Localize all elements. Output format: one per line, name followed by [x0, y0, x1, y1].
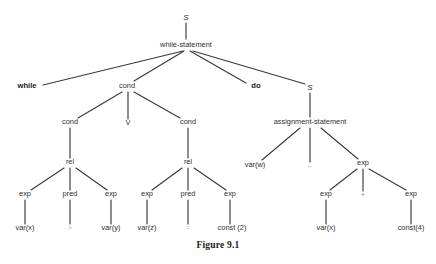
tree-node-n29: = — [186, 223, 190, 232]
tree-edge — [321, 128, 358, 159]
tree-node-n10: assignment-statement — [274, 117, 347, 126]
tree-node-n20: pred — [181, 189, 196, 198]
tree-edge — [152, 168, 182, 190]
tree-node-n9: cond — [180, 117, 196, 126]
tree-edge — [262, 128, 300, 160]
tree-node-n6: S — [307, 83, 313, 92]
tree-node-n8: V — [126, 118, 131, 127]
tree-edge — [134, 51, 184, 81]
tree-edge — [194, 168, 226, 190]
tree-node-n31: var(x) — [317, 223, 336, 232]
tree-node-n7: cond — [62, 117, 78, 126]
tree-edge — [76, 168, 107, 190]
tree-node-n17: pred — [63, 189, 78, 198]
tree-node-n25: var(x) — [16, 223, 35, 232]
tree-edge — [369, 169, 406, 190]
tree-node-n11: rel — [66, 157, 75, 166]
tree-node-n28: var(z) — [138, 223, 157, 232]
tree-node-n19: exp — [141, 189, 153, 198]
tree-node-n15: exp — [357, 158, 369, 167]
tree-node-n27: var(y) — [102, 223, 121, 232]
tree-node-n5: do — [251, 81, 261, 90]
tree-node-n21: exp — [224, 189, 236, 198]
tree-node-n3: while — [17, 81, 37, 90]
tree-node-n23: + — [361, 190, 365, 199]
tree-node-n1: S — [183, 13, 189, 22]
tree-edge — [134, 92, 180, 118]
tree-node-n24: exp — [405, 189, 417, 198]
figure-container: Swhile-statementwhileconddoScondVcondass… — [0, 0, 436, 264]
tree-node-n32: const(4) — [398, 223, 425, 232]
tree-edge — [190, 51, 246, 83]
tree-node-n22: exp — [320, 189, 332, 198]
tree-node-n18: exp — [105, 189, 117, 198]
parse-tree-diagram: Swhile-statementwhileconddoScondVcondass… — [0, 0, 436, 264]
tree-node-n4: cond — [119, 81, 135, 90]
tree-node-n30: const (2) — [218, 223, 247, 232]
tree-edge — [31, 168, 64, 190]
tree-node-n2: while-statement — [159, 40, 212, 49]
tree-nodes-group: Swhile-statementwhileconddoScondVcondass… — [16, 13, 425, 232]
tree-edge — [43, 51, 183, 85]
tree-edge — [193, 51, 305, 84]
tree-edge — [330, 169, 357, 190]
tree-edge — [78, 92, 122, 118]
tree-edges-group — [25, 23, 411, 224]
figure-caption: Figure 9.1 — [0, 240, 436, 250]
tree-node-n12: rel — [184, 157, 193, 166]
tree-node-n14: ← — [306, 161, 313, 170]
tree-node-n26: > — [68, 223, 72, 232]
tree-node-n16: exp — [19, 189, 31, 198]
tree-node-n13: var(w) — [245, 160, 266, 169]
